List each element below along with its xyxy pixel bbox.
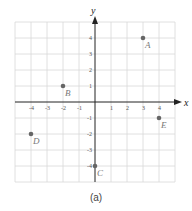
y-tick: 1 [89,83,92,89]
point-d-label: D [32,136,40,146]
y-tick: -3 [87,147,92,153]
x-axis-label: x [183,97,189,108]
x-tick: 3 [142,105,145,111]
x-tick: -2 [61,105,66,111]
x-tick: 1 [110,105,113,111]
point-c-label: C [97,168,104,178]
x-axis-arrow-icon [174,99,182,105]
x-tick: -1 [77,105,82,111]
point-a-label: A [144,40,151,50]
x-tick: -4 [29,105,34,111]
y-axis-arrow-icon [92,16,98,24]
coordinate-plane: x y -4 -3 -2 -1 1 2 3 4 4 3 2 1 -1 -2 -3… [0,0,192,211]
point-b-label: B [65,88,71,98]
y-tick: 4 [89,35,92,41]
y-tick: -4 [87,163,92,169]
y-axis-label: y [90,5,96,16]
y-tick: 2 [89,67,92,73]
point-e-label: E [160,120,167,130]
x-tick: 4 [158,105,161,111]
x-tick: -3 [45,105,50,111]
y-tick: -1 [87,115,92,121]
x-tick: 2 [126,105,129,111]
y-tick: -2 [87,131,92,137]
y-tick: 3 [89,51,92,57]
figure-caption: (a) [0,192,192,203]
